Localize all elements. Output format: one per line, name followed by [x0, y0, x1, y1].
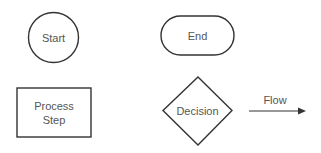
start-label: Start: [42, 32, 65, 44]
process-step-node[interactable]: Process Step: [17, 88, 91, 137]
process-rectangle-shape: [17, 88, 91, 137]
process-label-line-1: Process: [34, 100, 74, 112]
end-label: End: [188, 30, 208, 42]
decision-label: Decision: [176, 105, 218, 117]
start-node[interactable]: Start: [29, 13, 79, 63]
decision-node[interactable]: Decision: [163, 77, 232, 145]
arrow-right-icon: [298, 108, 306, 115]
flowchart-legend-canvas: Start End Process Step Decision Flow: [0, 0, 321, 153]
process-label-line-2: Step: [43, 114, 66, 126]
end-node[interactable]: End: [161, 16, 234, 55]
flow-connector[interactable]: Flow: [249, 94, 306, 115]
flow-label: Flow: [263, 94, 286, 106]
